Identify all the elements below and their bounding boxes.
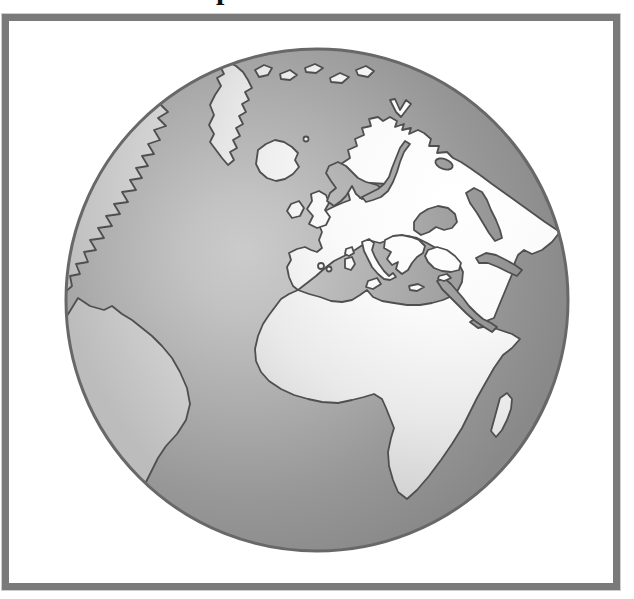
globe-illustration bbox=[0, 0, 634, 599]
balearic-island-2 bbox=[327, 267, 332, 272]
balearic-island-1 bbox=[318, 263, 324, 269]
small-islet bbox=[304, 137, 309, 142]
corsica bbox=[345, 247, 354, 256]
page: p bbox=[0, 0, 634, 599]
